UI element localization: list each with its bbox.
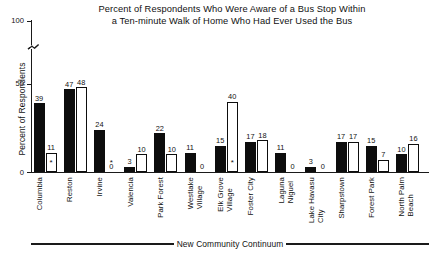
bar-series-white-3: [136, 154, 147, 172]
asterisk-annotation-0: *: [46, 160, 57, 166]
y-axis-label: Percent of Respondents: [17, 44, 27, 174]
x-axis-category-label-8: Laguna Niguel: [278, 177, 295, 203]
x-axis-category-label-2: Irvine: [96, 177, 105, 196]
bar-series-white-1: [76, 87, 87, 172]
chart-title-line-1: Percent of Respondents Who Were Aware of…: [99, 4, 366, 14]
bar-value-label-series-white-6: 40: [224, 92, 241, 101]
bar-series-black-10: [336, 142, 347, 172]
x-axis-category-label-6: Elk Grove Village: [217, 177, 234, 212]
bar-value-label-series-white-5: 0: [194, 162, 211, 171]
x-axis-category-label-5: Westlake Village: [187, 177, 204, 209]
x-axis-category-label-1: Reston: [66, 177, 75, 202]
x-axis-caption-row: New Community Continuum: [31, 239, 429, 249]
bar-chart: Percent of Respondents Who Were Aware of…: [0, 0, 433, 259]
x-axis-label: New Community Continuum: [177, 239, 284, 249]
bar-value-label-series-black-8: 11: [272, 143, 289, 152]
bar-value-label-series-black-5: 11: [182, 143, 199, 152]
axis-break-icon: [25, 40, 39, 54]
x-axis-category-label-4: Park Forest: [157, 177, 166, 218]
bar-value-label-series-black-4: 22: [151, 124, 168, 133]
bar-value-label-series-white-10: 17: [345, 132, 362, 141]
bar-series-black-7: [245, 142, 256, 172]
caption-rule-left: [31, 243, 174, 244]
x-axis-category-label-9: Lake Havasu City: [308, 177, 325, 223]
chart-title: Percent of Respondents Who Were Aware of…: [62, 4, 402, 27]
caption-rule-right: [286, 243, 429, 244]
bar-series-white-7: [257, 140, 268, 172]
bar-series-white-12: [408, 144, 419, 172]
x-axis-category-label-3: Valencia: [127, 177, 136, 207]
y-tick-label-0: 0: [4, 168, 24, 177]
y-tick-0: [27, 172, 32, 173]
y-tick-label-50: 50: [4, 79, 24, 88]
y-tick-50: [27, 84, 32, 85]
bar-series-white-11: [378, 160, 389, 172]
asterisk-annotation-2: *: [106, 160, 117, 166]
chart-title-line-2: a Ten-minute Walk of Home Who Had Ever U…: [112, 16, 353, 26]
asterisk-annotation-6: *: [227, 160, 238, 166]
bar-series-black-0: [34, 103, 45, 172]
bar-value-label-series-white-12: 16: [405, 134, 422, 143]
bar-series-black-1: [64, 89, 75, 172]
x-axis-category-label-7: Foster City: [247, 177, 256, 215]
x-axis-category-label-12: North Palm Beach: [398, 177, 415, 216]
y-tick-100: [27, 21, 32, 22]
x-axis-category-label-10: Sharpstown: [338, 177, 347, 219]
bar-value-label-series-white-1: 48: [73, 78, 90, 87]
bar-value-label-series-white-11: 7: [375, 150, 392, 159]
bar-series-black-12: [396, 154, 407, 172]
bar-series-black-3: [124, 167, 135, 172]
bar-series-black-6: [215, 146, 226, 172]
bar-series-white-4: [166, 154, 177, 172]
y-tick-label-100: 100: [4, 16, 24, 25]
bar-value-label-series-white-9: 0: [314, 162, 331, 171]
bar-value-label-series-white-3: 10: [133, 145, 150, 154]
bar-value-label-series-black-11: 15: [363, 136, 380, 145]
bar-value-label-series-white-7: 18: [254, 131, 271, 140]
x-axis-category-label-11: Forest Park: [368, 177, 377, 218]
bar-value-label-series-black-0: 39: [31, 94, 48, 103]
bar-value-label-series-white-4: 10: [163, 145, 180, 154]
x-axis-category-label-0: Columbia: [36, 177, 45, 210]
bar-value-label-series-white-8: 0: [284, 162, 301, 171]
bar-value-label-series-white-0: 11: [43, 143, 60, 152]
bar-value-label-series-black-2: 24: [91, 120, 108, 129]
bar-series-white-10: [348, 142, 359, 172]
